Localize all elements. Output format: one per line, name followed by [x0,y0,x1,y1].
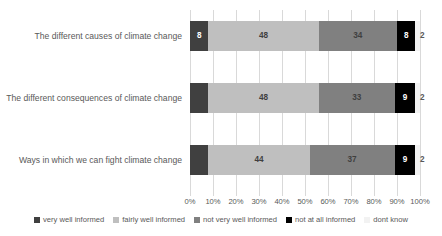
axis-tick-label: 50% [297,197,312,206]
legend-swatch-icon [364,217,370,223]
bar-value-label: 2 [420,94,425,102]
bar-segment: 48 [208,21,318,51]
bar-value-label: 37 [348,156,357,164]
legend-swatch-icon [194,217,200,223]
bar-segment: 37 [310,145,395,175]
bar-segment: 2 [415,83,420,113]
category-axis: The different causes of climate change T… [0,10,186,196]
bar-value-label: 2 [420,32,425,40]
bar-segment: 9 [395,83,416,113]
axis-tick-label: 100% [410,197,429,206]
bar-value-label: 33 [352,94,361,102]
legend-item[interactable]: dont know [364,216,408,224]
legend-item[interactable]: fairly well informed [113,216,185,224]
legend-label: very well informed [43,216,104,224]
value-axis: 0%10%20%30%40%50%60%70%80%90%100% [190,197,420,209]
bar-value-label: 8 [197,32,202,40]
axis-tick-label: 20% [228,197,243,206]
category-label: The different causes of climate change [0,21,182,51]
axis-tick-label: 70% [343,197,358,206]
chart-legend: very well informedfairly well informedno… [0,212,442,228]
bar-segment: 48 [208,83,318,113]
bar-segment: 33 [319,83,395,113]
plot-area: 8483482 483392 443792 [190,10,420,196]
bar-segment: 44 [208,145,309,175]
axis-tick-label: 0% [185,197,196,206]
axis-tick-label: 60% [320,197,335,206]
legend-label: not very well informed [203,216,277,224]
bar-row: 483392 [190,83,420,113]
legend-item[interactable]: not very well informed [194,216,277,224]
axis-tick-label: 80% [366,197,381,206]
legend-item[interactable]: very well informed [34,216,104,224]
bar-segment: 8 [397,21,415,51]
bar-value-label: 34 [353,32,362,40]
bar-row: 8483482 [190,21,420,51]
legend-swatch-icon [286,217,292,223]
axis-tick-label: 40% [274,197,289,206]
bar-value-label: 9 [403,94,408,102]
legend-label: not at all informed [295,216,355,224]
bar-segment: 34 [319,21,397,51]
bar-value-label: 44 [254,156,263,164]
bar-segment: 8 [190,21,208,51]
bar-value-label: 8 [404,32,409,40]
category-label: The different consequences of climate ch… [0,83,182,113]
bar-value-label: 48 [259,32,268,40]
bar-segment: 2 [415,21,420,51]
bar-value-label: 2 [420,156,425,164]
bar-value-label: 9 [403,156,408,164]
bar-row: 443792 [190,145,420,175]
bar-segment [190,145,208,175]
legend-swatch-icon [113,217,119,223]
legend-label: dont know [373,216,408,224]
stacked-bar-chart: The different causes of climate change T… [0,0,442,236]
axis-tick-label: 10% [205,197,220,206]
legend-label: fairly well informed [122,216,185,224]
axis-tick-label: 90% [389,197,404,206]
axis-tick-label: 30% [251,197,266,206]
bar-value-label: 48 [259,94,268,102]
legend-item[interactable]: not at all informed [286,216,355,224]
category-label: Ways in which we can fight climate chang… [0,145,182,175]
bar-segment: 9 [395,145,416,175]
bar-segment [190,83,208,113]
bar-segment: 2 [415,145,420,175]
legend-swatch-icon [34,217,40,223]
